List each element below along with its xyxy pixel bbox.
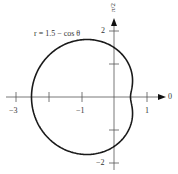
x-axis-end-label: 0 <box>168 93 172 101</box>
x-tick-label-neg3: −3 <box>9 107 18 115</box>
y-axis-arrow-icon <box>111 18 117 26</box>
y-axis-end-label: π/2 <box>110 3 117 12</box>
x-axis-arrow-icon <box>158 94 166 100</box>
x-tick-label-1: 1 <box>145 107 149 115</box>
y-tick-label-2: 2 <box>101 27 105 35</box>
x-tick-label-neg1: −1 <box>76 107 85 115</box>
equation-label: r = 1.5 − cos θ <box>34 29 80 38</box>
polar-plot <box>0 0 178 174</box>
y-tick-label-neg2: −2 <box>96 159 105 167</box>
